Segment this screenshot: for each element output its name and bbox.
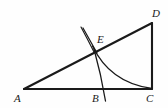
geometry-figure: A B C D E (0, 0, 168, 108)
geometry-canvas (0, 0, 168, 108)
vertex-label-e: E (97, 34, 104, 45)
figure-background (0, 0, 168, 108)
vertex-label-c: C (146, 93, 153, 104)
vertex-label-d: D (152, 8, 160, 19)
vertex-label-a: A (14, 93, 21, 104)
vertex-label-b: B (92, 93, 99, 104)
